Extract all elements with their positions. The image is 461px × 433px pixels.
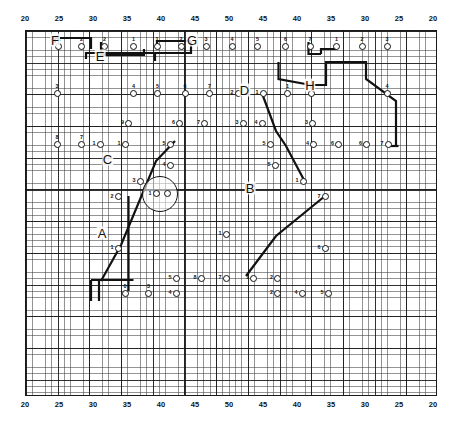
plot-marker[interactable] xyxy=(201,120,208,127)
plot-marker[interactable] xyxy=(167,141,174,148)
plot-marker[interactable] xyxy=(274,275,281,282)
plot-marker[interactable] xyxy=(206,90,213,97)
plot-marker[interactable] xyxy=(259,120,266,127)
connector-line xyxy=(246,196,325,276)
plot-marker[interactable] xyxy=(335,141,342,148)
marker-label: 2 xyxy=(180,37,183,42)
plot-marker[interactable] xyxy=(154,43,161,50)
plot-marker[interactable] xyxy=(254,43,261,50)
plot-marker[interactable] xyxy=(198,275,205,282)
group-letter-e: E xyxy=(95,50,106,63)
marker-label: 1 xyxy=(219,231,222,236)
plot-marker[interactable] xyxy=(97,141,104,148)
marker-label: 7 xyxy=(219,275,222,280)
marker-label: 4 xyxy=(169,290,172,295)
plot-marker[interactable] xyxy=(130,43,137,50)
plot-marker[interactable] xyxy=(325,290,332,297)
group-letter-b: B xyxy=(245,182,256,195)
plot-marker[interactable] xyxy=(178,43,185,50)
marker-label: 8 xyxy=(56,134,59,139)
bottom-axis-tick-5: 45 xyxy=(191,400,200,409)
marker-label: 5 xyxy=(256,37,259,42)
plot-marker[interactable] xyxy=(173,290,180,297)
plot-marker[interactable] xyxy=(333,43,340,50)
plot-area: A221123456712334567211249673438711554667… xyxy=(25,30,437,396)
plot-marker[interactable] xyxy=(229,43,236,50)
plot-marker[interactable] xyxy=(299,290,306,297)
plot-marker[interactable] xyxy=(182,90,189,97)
plot-marker[interactable] xyxy=(322,245,329,252)
plot-marker[interactable] xyxy=(260,90,267,97)
marker-label: 5 xyxy=(321,290,324,295)
group-letter-f: F xyxy=(50,34,60,47)
plot-marker[interactable] xyxy=(223,275,230,282)
plot-marker[interactable] xyxy=(78,43,85,50)
plot-marker[interactable] xyxy=(272,162,279,169)
marker-label: 5 xyxy=(169,275,172,280)
top-axis: 20253035404550454035302520 xyxy=(0,14,461,26)
marker-label: 1 xyxy=(156,37,159,42)
plot-marker[interactable] xyxy=(223,231,230,238)
plot-marker[interactable] xyxy=(274,290,281,297)
group-letter-h: H xyxy=(304,79,315,92)
connector-line xyxy=(311,62,396,146)
bottom-axis-tick-4: 40 xyxy=(157,400,166,409)
plot-marker[interactable] xyxy=(384,43,391,50)
marker-label: 4 xyxy=(231,37,234,42)
marker-label: 4 xyxy=(386,83,389,88)
plot-marker[interactable] xyxy=(115,193,122,200)
marker-label: 5 xyxy=(263,141,266,146)
marker-label: 2 xyxy=(361,37,364,42)
plot-marker[interactable] xyxy=(167,162,174,169)
top-axis-tick-8: 40 xyxy=(293,14,302,23)
plot-marker[interactable] xyxy=(310,141,317,148)
plot-marker[interactable] xyxy=(130,90,137,97)
marker-label: 4 xyxy=(255,120,258,125)
plot-marker[interactable] xyxy=(122,290,129,297)
marker-label: 3 xyxy=(133,178,136,183)
plot-marker[interactable] xyxy=(122,141,129,148)
marker-label: 7 xyxy=(381,141,384,146)
plot-marker[interactable] xyxy=(54,141,61,148)
plot-marker[interactable] xyxy=(154,90,161,97)
plot-marker[interactable] xyxy=(153,190,160,197)
plot-marker[interactable] xyxy=(309,120,316,127)
plot-marker[interactable] xyxy=(300,178,307,185)
plot-marker[interactable] xyxy=(164,190,171,197)
marker-label: 7 xyxy=(80,134,83,139)
plot-marker[interactable] xyxy=(54,90,61,97)
plot-marker[interactable] xyxy=(282,43,289,50)
plot-marker[interactable] xyxy=(267,141,274,148)
plot-marker[interactable] xyxy=(307,43,314,50)
marker-label: 1 xyxy=(286,83,289,88)
plot-marker[interactable] xyxy=(322,193,329,200)
plot-marker[interactable] xyxy=(115,245,122,252)
plot-marker[interactable] xyxy=(203,43,210,50)
group-letter-a: A xyxy=(97,227,108,240)
bottom-axis-tick-0: 20 xyxy=(21,400,30,409)
bottom-axis-tick-8: 40 xyxy=(293,400,302,409)
marker-label: 4 xyxy=(163,162,166,167)
plot-marker[interactable] xyxy=(173,275,180,282)
plot-marker[interactable] xyxy=(176,120,183,127)
plot-marker[interactable] xyxy=(250,275,257,282)
marker-label: 4 xyxy=(295,290,298,295)
plot-marker[interactable] xyxy=(145,290,152,297)
bottom-axis-tick-3: 35 xyxy=(123,400,132,409)
plot-marker[interactable] xyxy=(137,178,144,185)
plot-marker[interactable] xyxy=(125,120,132,127)
plot-marker[interactable] xyxy=(284,90,291,97)
plot-marker[interactable] xyxy=(363,141,370,148)
marker-label: 1 xyxy=(335,37,338,42)
marker-label: 3 xyxy=(147,283,150,288)
plot-marker[interactable] xyxy=(240,120,247,127)
plot-marker[interactable] xyxy=(384,90,391,97)
marker-label: 6 xyxy=(331,141,334,146)
bottom-axis-tick-1: 25 xyxy=(55,400,64,409)
bottom-axis-tick-11: 25 xyxy=(395,400,404,409)
plot-marker[interactable] xyxy=(78,141,85,148)
marker-label: 2 xyxy=(270,290,273,295)
plot-marker[interactable] xyxy=(385,141,392,148)
marker-label: 8 xyxy=(194,275,197,280)
plot-marker[interactable] xyxy=(359,43,366,50)
